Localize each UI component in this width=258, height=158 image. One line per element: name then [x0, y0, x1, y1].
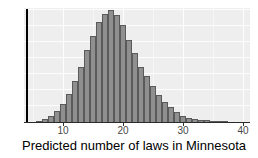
gridline-vertical-minor	[213, 8, 214, 122]
gridline-horizontal	[24, 25, 250, 26]
gridline-horizontal	[24, 9, 250, 10]
plot-area	[24, 8, 250, 123]
gridline-horizontal	[24, 41, 250, 42]
x-tick-label: 30	[173, 125, 193, 136]
observed-value-line	[26, 9, 28, 122]
gridline-vertical-minor	[33, 8, 34, 122]
x-axis-title: Predicted number of laws in Minnesota	[22, 138, 242, 153]
gridline-vertical-major	[243, 8, 244, 122]
gridline-vertical-major	[183, 8, 184, 122]
x-tick-label: 40	[233, 125, 253, 136]
histogram-figure: 10203040 Predicted number of laws in Min…	[0, 0, 258, 158]
x-tick-label: 10	[53, 125, 73, 136]
x-tick-label: 20	[113, 125, 133, 136]
histogram-bar	[222, 121, 228, 122]
